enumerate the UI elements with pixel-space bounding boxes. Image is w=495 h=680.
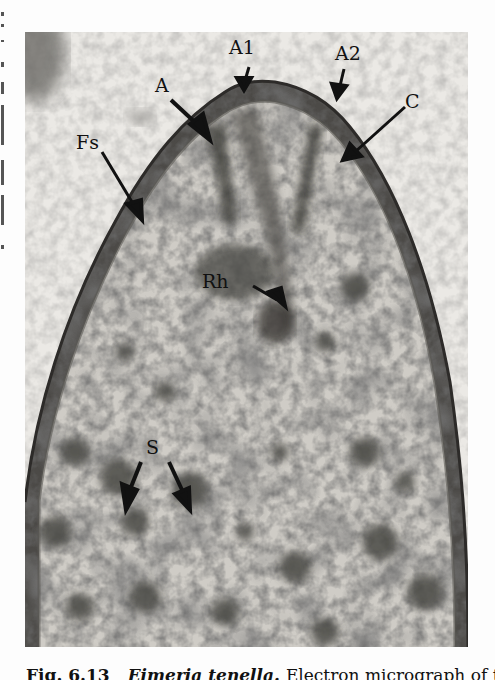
figure-number: Fig. 6.13 <box>26 665 110 680</box>
label-Rh: Rh <box>202 272 229 291</box>
electron-micrograph: A1 A2 A C Fs Rh S <box>25 32 468 647</box>
label-A2: A2 <box>335 44 361 63</box>
caption-text: Electron micrograph of the apical end… <box>286 665 495 680</box>
label-C: C <box>405 92 420 111</box>
label-A1: A1 <box>229 38 255 57</box>
label-S: S <box>146 438 159 457</box>
micrograph-image <box>25 32 468 647</box>
species-name: Eimeria tenella. <box>128 665 280 680</box>
gutter-text-fragments <box>0 10 8 270</box>
figure-caption: Fig. 6.13Eimeria tenella.Electron microg… <box>26 665 486 680</box>
label-Fs: Fs <box>76 133 99 152</box>
book-page: A1 A2 A C Fs Rh S Fig. 6.13Eimeria tenel… <box>0 0 495 680</box>
label-A: A <box>155 76 169 95</box>
